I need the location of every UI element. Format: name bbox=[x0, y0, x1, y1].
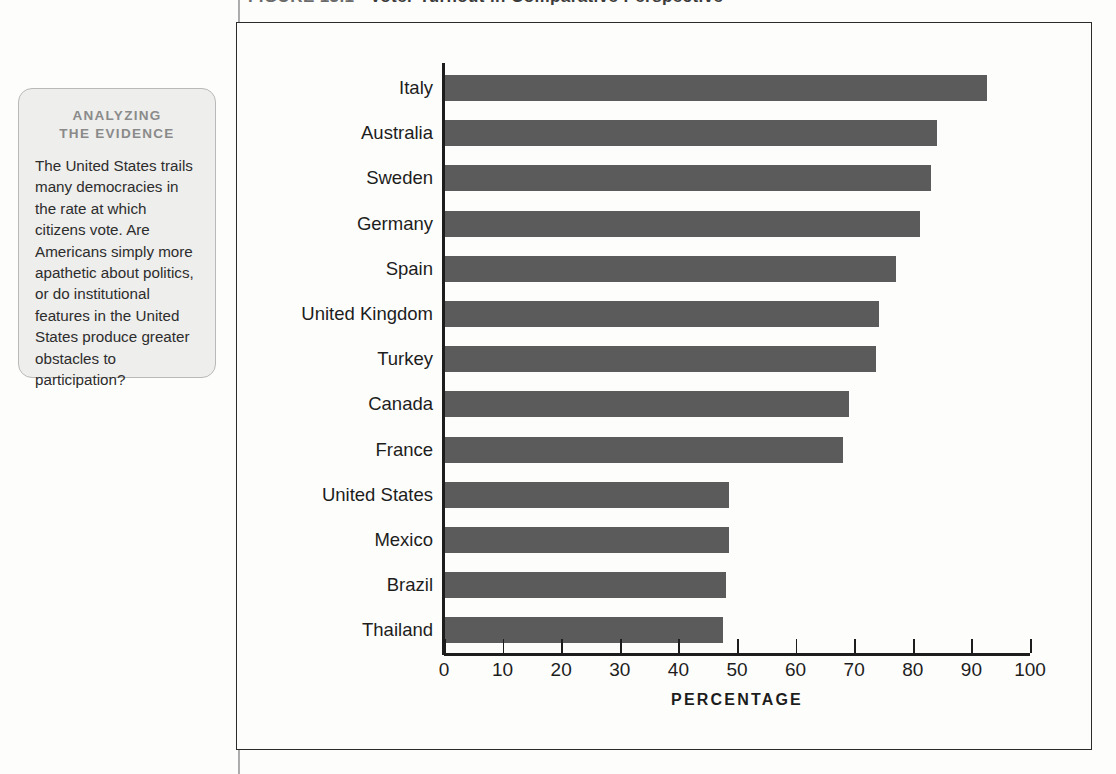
bar bbox=[445, 256, 896, 282]
x-axis-title: PERCENTAGE bbox=[444, 691, 1030, 709]
x-axis-tick bbox=[1030, 639, 1032, 653]
x-axis-tick bbox=[678, 639, 680, 653]
y-axis-line bbox=[442, 63, 445, 655]
x-axis-tick bbox=[620, 639, 622, 653]
bar-row: Brazil bbox=[237, 564, 1093, 606]
bar-category-label: Turkey bbox=[237, 338, 433, 380]
evidence-heading-line-2: THE EVIDENCE bbox=[35, 125, 199, 143]
x-axis-tick-label: 40 bbox=[648, 659, 708, 681]
bar-category-label: Italy bbox=[237, 67, 433, 109]
evidence-body-text: The United States trails many democracie… bbox=[35, 155, 199, 390]
bar bbox=[445, 346, 876, 372]
bar-category-label: Germany bbox=[237, 203, 433, 245]
bar-category-label: United Kingdom bbox=[237, 293, 433, 335]
bar-category-label: Spain bbox=[237, 248, 433, 290]
x-axis-tick-label: 0 bbox=[414, 659, 474, 681]
bar-row: Sweden bbox=[237, 157, 1093, 199]
bar bbox=[445, 437, 843, 463]
bar-row: France bbox=[237, 429, 1093, 471]
analyzing-the-evidence-box: ANALYZING THE EVIDENCE The United States… bbox=[18, 88, 216, 378]
bar bbox=[445, 75, 987, 101]
bar bbox=[445, 482, 729, 508]
evidence-heading: ANALYZING THE EVIDENCE bbox=[35, 107, 199, 143]
bar-row: Australia bbox=[237, 112, 1093, 154]
bar-category-label: Brazil bbox=[237, 564, 433, 606]
bar bbox=[445, 617, 723, 643]
bar-category-label: Australia bbox=[237, 112, 433, 154]
x-axis-tick-label: 60 bbox=[766, 659, 826, 681]
figure-title: FIGURE 13.1 Voter Turnout in Comparative… bbox=[248, 0, 948, 7]
bar-row: United States bbox=[237, 474, 1093, 516]
figure-page: FIGURE 13.1 Voter Turnout in Comparative… bbox=[0, 0, 1116, 774]
x-axis-tick bbox=[561, 639, 563, 653]
x-axis-tick bbox=[854, 639, 856, 653]
bar-row: Turkey bbox=[237, 338, 1093, 380]
bar bbox=[445, 572, 726, 598]
x-axis-tick-label: 10 bbox=[473, 659, 533, 681]
bar-row: Mexico bbox=[237, 519, 1093, 561]
evidence-heading-line-1: ANALYZING bbox=[35, 107, 199, 125]
bar-category-label: Canada bbox=[237, 383, 433, 425]
bar-category-label: Thailand bbox=[237, 609, 433, 651]
bar-row: Germany bbox=[237, 203, 1093, 245]
bar-category-label: United States bbox=[237, 474, 433, 516]
chart-frame: ItalyAustraliaSwedenGermanySpainUnited K… bbox=[236, 22, 1092, 750]
bar bbox=[445, 301, 879, 327]
x-axis-tick-label: 70 bbox=[824, 659, 884, 681]
bar-chart-plot: ItalyAustraliaSwedenGermanySpainUnited K… bbox=[237, 23, 1093, 751]
x-axis-tick-label: 30 bbox=[590, 659, 650, 681]
x-axis-tick-label: 90 bbox=[941, 659, 1001, 681]
bar-row: Italy bbox=[237, 67, 1093, 109]
x-axis-tick-label: 80 bbox=[883, 659, 943, 681]
x-axis-tick bbox=[913, 639, 915, 653]
x-axis-line bbox=[444, 653, 1030, 656]
bar-category-label: Sweden bbox=[237, 157, 433, 199]
x-axis-tick-label: 50 bbox=[707, 659, 767, 681]
bar bbox=[445, 391, 849, 417]
bar-row: United Kingdom bbox=[237, 293, 1093, 335]
bar-category-label: Mexico bbox=[237, 519, 433, 561]
figure-number: FIGURE 13.1 bbox=[248, 0, 354, 6]
bar bbox=[445, 211, 920, 237]
x-axis-tick-label: 100 bbox=[1000, 659, 1060, 681]
figure-title-text: Voter Turnout in Comparative Perspective bbox=[370, 0, 724, 6]
bar-category-label: France bbox=[237, 429, 433, 471]
bar bbox=[445, 165, 931, 191]
bar-row: Spain bbox=[237, 248, 1093, 290]
x-axis-tick-label: 20 bbox=[531, 659, 591, 681]
x-axis-tick bbox=[444, 639, 446, 653]
x-axis-tick bbox=[737, 639, 739, 653]
bar bbox=[445, 120, 937, 146]
bar-row: Thailand bbox=[237, 609, 1093, 651]
bar bbox=[445, 527, 729, 553]
bar-row: Canada bbox=[237, 383, 1093, 425]
x-axis-tick bbox=[971, 639, 973, 653]
x-axis-tick bbox=[503, 639, 505, 653]
x-axis-tick bbox=[796, 639, 798, 653]
